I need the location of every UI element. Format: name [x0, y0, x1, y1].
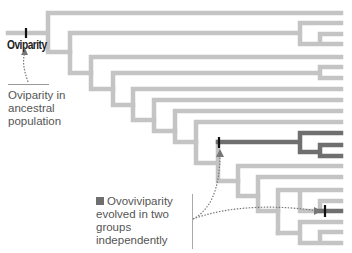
ancestral-note-rule [8, 84, 49, 85]
derived-note-text: Ovoviviparity evolved in two groups inde… [96, 195, 173, 246]
branch [133, 89, 341, 120]
branch [175, 111, 341, 142]
branch [154, 100, 341, 131]
ancestral-note: Oviparity in ancestral population [8, 89, 88, 128]
branch [218, 142, 238, 181]
dotted-arrow [24, 52, 28, 82]
branch [70, 23, 341, 73]
derived-note-rule [192, 194, 193, 249]
ovoviviparous-branch [218, 133, 341, 156]
ovoviviparity-legend-swatch [96, 197, 104, 205]
derived-note: Ovoviviparity evolved in two groups inde… [96, 195, 196, 247]
branch [278, 222, 341, 243]
root-trait-label: Oviparity [7, 38, 47, 52]
